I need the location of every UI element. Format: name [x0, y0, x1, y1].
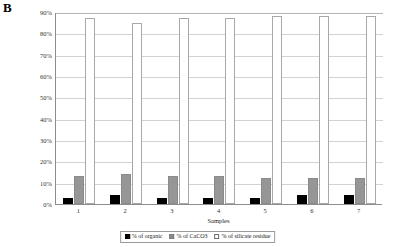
y-axis-tick-label: 80% — [4, 31, 52, 38]
x-axis-title: Samples — [55, 217, 382, 225]
x-axis-tick-label: 6 — [292, 207, 332, 215]
y-axis-tick-labels: 0%10%20%30%40%50%60%70%80%90% — [0, 13, 52, 205]
legend-swatch-silicate-residue-icon — [215, 234, 220, 239]
figure-panel-b: B 0%10%20%30%40%50%60%70%80%90% 1234567 … — [0, 0, 395, 247]
bar-group — [103, 12, 150, 204]
bar-silicate-residue-sample-7 — [366, 16, 376, 204]
legend-label: % of organic — [132, 233, 163, 240]
bar-caco3-sample-1 — [74, 176, 84, 204]
legend-label: % of CaCO3 — [177, 233, 208, 240]
x-axis-tick-label: 5 — [245, 207, 285, 215]
plot-area — [55, 13, 382, 205]
chart-legend: % of organic% of CaCO3% of silicate resi… — [120, 231, 276, 243]
bar-caco3-sample-4 — [214, 176, 224, 204]
bar-group — [290, 12, 337, 204]
legend-item-organic: % of organic — [125, 233, 163, 240]
bar-silicate-residue-sample-4 — [225, 18, 235, 204]
y-axis-tick-label: 70% — [4, 53, 52, 60]
y-axis-tick-label: 20% — [4, 159, 52, 166]
bar-group — [196, 12, 243, 204]
bar-silicate-residue-sample-5 — [272, 16, 282, 204]
bar-caco3-sample-6 — [308, 178, 318, 204]
x-axis-tick-label: 2 — [105, 207, 145, 215]
bar-silicate-residue-sample-3 — [179, 18, 189, 204]
y-axis-tick-label: 90% — [4, 10, 52, 17]
bar-caco3-sample-3 — [168, 176, 178, 204]
bar-silicate-residue-sample-1 — [85, 18, 95, 204]
legend-swatch-organic-icon — [125, 234, 130, 239]
y-axis-tick-label: 30% — [4, 138, 52, 145]
legend-label: % of silicate residue — [222, 233, 271, 240]
x-axis-tick-label: 4 — [199, 207, 239, 215]
y-axis-tick-label: 10% — [4, 181, 52, 188]
legend-swatch-caco3-icon — [170, 234, 175, 239]
bar-organic-sample-4 — [203, 198, 213, 204]
x-axis-tick-label: 3 — [152, 207, 192, 215]
bar-caco3-sample-2 — [121, 174, 131, 204]
legend-item-silicate-residue: % of silicate residue — [215, 233, 271, 240]
bar-silicate-residue-sample-6 — [319, 16, 329, 204]
bar-group — [336, 12, 383, 204]
bar-organic-sample-1 — [63, 198, 73, 204]
bar-organic-sample-6 — [297, 195, 307, 204]
bar-caco3-sample-7 — [355, 178, 365, 204]
y-axis-tick-label: 0% — [4, 202, 52, 209]
x-axis-tick-label: 1 — [58, 207, 98, 215]
bar-organic-sample-7 — [344, 195, 354, 204]
y-axis-tick-label: 60% — [4, 74, 52, 81]
bar-organic-sample-2 — [110, 195, 120, 204]
y-axis-tick-label: 40% — [4, 117, 52, 124]
y-axis-tick-label: 50% — [4, 95, 52, 102]
bar-group — [243, 12, 290, 204]
bar-organic-sample-5 — [250, 198, 260, 204]
bar-group — [56, 12, 103, 204]
x-axis-tick-label: 7 — [339, 207, 379, 215]
legend-item-caco3: % of CaCO3 — [170, 233, 208, 240]
bar-silicate-residue-sample-2 — [132, 23, 142, 204]
bar-caco3-sample-5 — [261, 178, 271, 204]
bar-organic-sample-3 — [157, 198, 167, 204]
bar-group — [149, 12, 196, 204]
